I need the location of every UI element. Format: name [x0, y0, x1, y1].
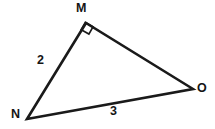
triangle-svg: [0, 0, 215, 129]
vertex-label-m: M: [76, 2, 86, 14]
side-length-label-no: 3: [110, 105, 117, 117]
vertex-label-o: O: [197, 82, 207, 94]
geometry-figure: M N O 2 3: [0, 0, 215, 129]
vertex-label-n: N: [11, 108, 20, 120]
right-angle-marker-icon: [81, 23, 93, 35]
side-length-label-mn: 2: [37, 54, 44, 66]
